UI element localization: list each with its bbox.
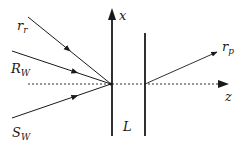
label-S-W: SW <box>12 126 30 142</box>
label-R-W: RW <box>11 62 30 78</box>
label-r-r-sub: r <box>23 25 27 35</box>
label-r-r: rr <box>17 19 28 35</box>
label-x-axis: x <box>119 9 126 22</box>
convergence-point <box>109 82 112 85</box>
ray-r-p <box>145 52 217 84</box>
label-S-W-sub: W <box>21 132 30 142</box>
x-axis-plane <box>108 8 116 136</box>
label-R-W-main: R <box>11 61 21 76</box>
x-axis-arrow-icon <box>108 8 116 20</box>
ray-S-W <box>12 84 111 118</box>
label-R-W-sub: W <box>21 68 30 78</box>
label-r-p: rp <box>222 40 234 56</box>
z-axis <box>28 80 229 88</box>
z-axis-arrow-icon <box>218 80 229 88</box>
label-z-axis: z <box>225 90 232 103</box>
label-S-W-main: S <box>12 125 21 140</box>
label-r-p-sub: p <box>228 46 234 56</box>
label-L: L <box>123 120 132 133</box>
